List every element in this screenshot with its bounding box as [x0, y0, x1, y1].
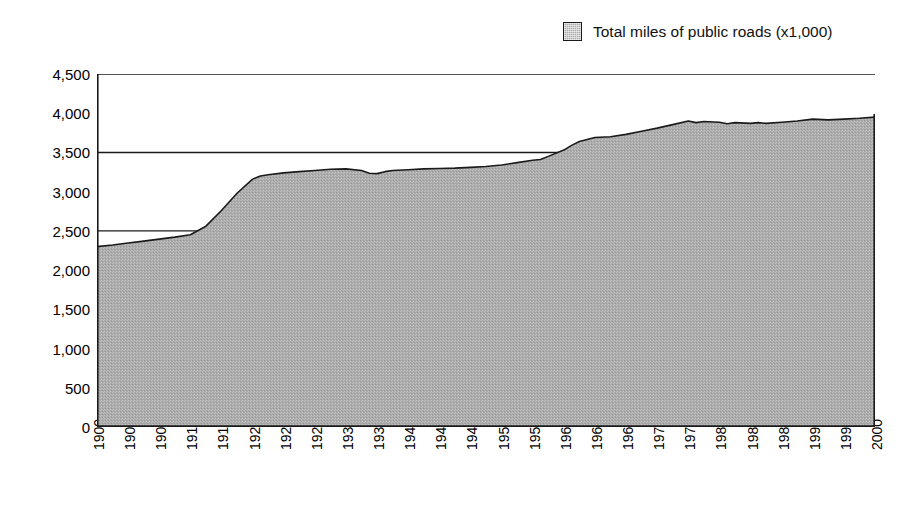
x-axis-tick-label: 1952 — [497, 436, 511, 450]
y-axis-tick-label: 500 — [20, 380, 90, 395]
x-axis-tick-label: 1908 — [154, 436, 168, 450]
x-axis-tick-label: 1972 — [652, 436, 666, 450]
x-axis-tick-label: 1992 — [808, 436, 822, 450]
x-axis-tick-label: 1948 — [465, 436, 479, 450]
y-axis-tick-label: 0 — [20, 420, 90, 435]
x-axis-tick-label: 1936 — [372, 436, 386, 450]
x-axis-tick-label: 1988 — [777, 436, 791, 450]
x-axis-tick-label: 1932 — [341, 436, 355, 450]
x-axis-tick-label: 1984 — [746, 436, 760, 450]
y-axis-tick-label: 4,500 — [20, 67, 90, 82]
x-axis-tick-label: 1900 — [92, 436, 106, 450]
x-axis-tick-label: 1996 — [839, 436, 853, 450]
x-axis-tick-label: 1980 — [714, 436, 728, 450]
series-area-fill — [97, 117, 875, 427]
x-axis-tick-label: 1968 — [621, 436, 635, 450]
x-axis-tick-label: 1928 — [310, 436, 324, 450]
y-axis-tick-label: 4,000 — [20, 106, 90, 121]
x-axis-tick-label: 1956 — [528, 436, 542, 450]
x-axis-tick-label: 1944 — [434, 436, 448, 450]
y-axis-tick-label: 1,500 — [20, 302, 90, 317]
x-axis-tick-label: 1912 — [185, 436, 199, 450]
legend-color-swatch — [563, 22, 582, 41]
x-axis-tick-label: 1920 — [248, 436, 262, 450]
legend-label: Total miles of public roads (x1,000) — [593, 24, 833, 40]
x-axis-tick-label: 2000 — [870, 436, 884, 450]
area-chart-svg — [97, 74, 875, 427]
y-axis-tick-label: 1,000 — [20, 341, 90, 356]
x-axis-tick-label: 1904 — [123, 436, 137, 450]
y-axis-tick-label: 2,000 — [20, 263, 90, 278]
chart-legend: Total miles of public roads (x1,000) — [563, 22, 833, 41]
y-axis-tick-label: 3,000 — [20, 184, 90, 199]
area-chart: Total miles of public roads (x1,000) 050… — [0, 0, 917, 512]
plot-area — [97, 74, 875, 427]
x-axis-tick-label: 1924 — [279, 436, 293, 450]
x-axis-tick-label: 1960 — [559, 436, 573, 450]
x-axis-tick-label: 1964 — [590, 436, 604, 450]
y-axis-tick-label: 3,500 — [20, 145, 90, 160]
x-axis-tick-label: 1976 — [683, 436, 697, 450]
x-axis-tick-label: 1940 — [403, 436, 417, 450]
y-axis-tick-label: 2,500 — [20, 223, 90, 238]
x-axis-tick-label: 1916 — [216, 436, 230, 450]
